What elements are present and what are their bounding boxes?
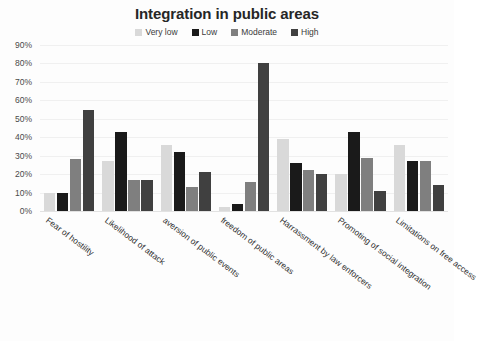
legend-entry[interactable]: Moderate <box>231 27 277 37</box>
x-axis-category-label: Fear of hostility <box>44 215 96 258</box>
bar[interactable] <box>277 139 288 211</box>
legend-label: High <box>301 27 318 37</box>
y-axis-tick-label: 20% <box>15 169 32 179</box>
legend-entry[interactable]: Low <box>192 27 218 37</box>
bar[interactable] <box>258 63 269 211</box>
legend-label: Low <box>202 27 218 37</box>
bar-group <box>215 45 273 211</box>
bar-group <box>40 45 98 211</box>
legend-swatch-icon <box>291 29 298 36</box>
bar[interactable] <box>161 145 172 211</box>
bar-group <box>157 45 215 211</box>
bar[interactable] <box>361 158 372 211</box>
x-axis-category-label: Likelihood of attack <box>103 215 167 267</box>
legend-entry[interactable]: High <box>291 27 318 37</box>
chart-title: Integration in public areas <box>0 5 454 22</box>
bar[interactable] <box>348 132 359 211</box>
bar[interactable] <box>102 161 113 211</box>
y-axis-tick-label: 0% <box>20 206 32 216</box>
bar[interactable] <box>141 180 152 211</box>
bar[interactable] <box>316 174 327 211</box>
bar[interactable] <box>394 145 405 211</box>
bar-group <box>98 45 156 211</box>
legend-entry[interactable]: Very low <box>135 27 177 37</box>
x-axis-category-label: Harrassment by law enforcers <box>278 215 374 291</box>
bar[interactable] <box>83 110 94 211</box>
bar[interactable] <box>290 163 301 211</box>
bar-group <box>331 45 389 211</box>
bar[interactable] <box>199 172 210 211</box>
y-axis-tick-label: 60% <box>15 95 32 105</box>
y-axis-tick-label: 30% <box>15 151 32 161</box>
bar[interactable] <box>335 174 346 211</box>
bar[interactable] <box>245 182 256 212</box>
bars-layer <box>40 45 448 211</box>
bar[interactable] <box>374 191 385 211</box>
bar[interactable] <box>70 159 81 211</box>
bar[interactable] <box>115 132 126 211</box>
y-axis-tick-label: 80% <box>15 58 32 68</box>
legend-label: Very low <box>145 27 177 37</box>
bar[interactable] <box>186 187 197 211</box>
legend-swatch-icon <box>135 29 142 36</box>
bar[interactable] <box>44 193 55 211</box>
y-axis-tick-label: 70% <box>15 77 32 87</box>
x-axis-labels: Fear of hostilityLikelihood of attackave… <box>40 211 448 341</box>
y-axis: 90%80%70%60%50%40%30%20%10%0% <box>0 45 36 211</box>
bar[interactable] <box>57 193 68 211</box>
bar-group <box>390 45 448 211</box>
y-axis-tick-label: 90% <box>15 40 32 50</box>
bar[interactable] <box>407 161 418 211</box>
legend-swatch-icon <box>231 29 238 36</box>
legend-label: Moderate <box>241 27 277 37</box>
y-axis-tick-label: 10% <box>15 188 32 198</box>
x-axis-category-label: Promoting of social integration <box>336 215 433 292</box>
y-axis-tick-label: 50% <box>15 114 32 124</box>
bar[interactable] <box>174 152 185 211</box>
bar-group <box>273 45 331 211</box>
chart-legend: Very lowLowModerateHigh <box>0 27 454 37</box>
bar[interactable] <box>128 180 139 211</box>
bar[interactable] <box>232 204 243 211</box>
bar[interactable] <box>433 185 444 211</box>
bar[interactable] <box>420 161 431 211</box>
y-axis-tick-label: 40% <box>15 132 32 142</box>
bar[interactable] <box>303 170 314 211</box>
legend-swatch-icon <box>192 29 199 36</box>
